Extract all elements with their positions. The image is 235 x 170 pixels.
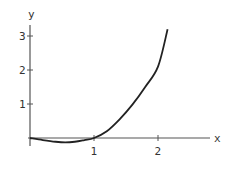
x-axis: x bbox=[28, 132, 221, 145]
y-tick-label: 3 bbox=[19, 30, 26, 43]
y-tick-label: 1 bbox=[19, 98, 26, 111]
x-tick-label: 2 bbox=[155, 145, 162, 158]
y-axis: y bbox=[28, 8, 35, 146]
chart: x y 12123 bbox=[0, 0, 235, 170]
data-curve bbox=[30, 29, 168, 142]
x-tick-label: 1 bbox=[91, 145, 98, 158]
x-axis-label: x bbox=[214, 132, 221, 145]
y-axis-label: y bbox=[28, 8, 35, 21]
y-tick-label: 2 bbox=[19, 64, 26, 77]
